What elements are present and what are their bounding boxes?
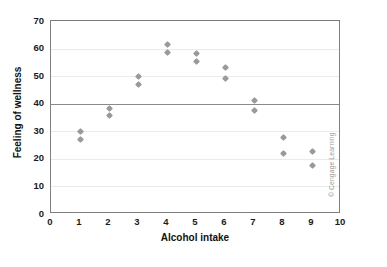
data-point bbox=[250, 97, 257, 104]
x-axis-tick-label: 9 bbox=[301, 216, 321, 227]
data-point bbox=[192, 50, 199, 57]
data-point bbox=[163, 49, 170, 56]
gridline bbox=[51, 76, 339, 77]
data-point bbox=[308, 148, 315, 155]
x-axis-tick-label: 4 bbox=[156, 216, 176, 227]
gridline bbox=[51, 131, 339, 132]
x-axis-tick-label: 1 bbox=[69, 216, 89, 227]
x-axis-tick-label: 8 bbox=[272, 216, 292, 227]
x-axis-tick-label: 2 bbox=[98, 216, 118, 227]
data-point bbox=[279, 134, 286, 141]
data-point bbox=[192, 58, 199, 65]
copyright-credit: © Cengage Learning bbox=[328, 87, 335, 197]
data-point bbox=[105, 112, 112, 119]
y-axis-tick-label: 70 bbox=[18, 16, 44, 25]
data-point bbox=[134, 81, 141, 88]
data-point bbox=[308, 162, 315, 169]
data-point bbox=[221, 64, 228, 71]
data-point bbox=[134, 73, 141, 80]
data-point bbox=[163, 41, 170, 48]
data-point bbox=[76, 136, 83, 143]
x-axis-tick-label: 6 bbox=[214, 216, 234, 227]
gridline bbox=[51, 159, 339, 160]
gridline bbox=[51, 49, 339, 50]
x-axis-tick-label: 0 bbox=[40, 216, 60, 227]
x-axis-tick-label: 10 bbox=[330, 216, 350, 227]
x-axis-tick-label: 7 bbox=[243, 216, 263, 227]
gridline bbox=[51, 186, 339, 187]
data-point bbox=[76, 128, 83, 135]
x-axis-title: Alcohol intake bbox=[50, 232, 340, 243]
reference-line bbox=[51, 104, 339, 105]
x-axis-tick-label: 5 bbox=[185, 216, 205, 227]
data-point bbox=[279, 150, 286, 157]
data-point bbox=[250, 107, 257, 114]
y-axis-title: Feeling of wellness bbox=[12, 33, 23, 193]
data-point bbox=[221, 75, 228, 82]
scatter-chart-figure: 010203040506070 012345678910 Alcohol int… bbox=[0, 0, 387, 267]
plot-area bbox=[50, 20, 340, 213]
x-axis-tick-label: 3 bbox=[127, 216, 147, 227]
